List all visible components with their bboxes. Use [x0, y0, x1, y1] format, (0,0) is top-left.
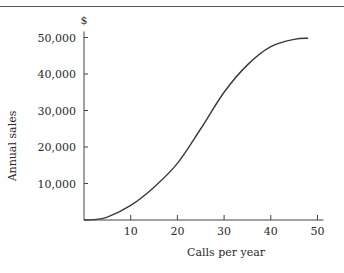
- y-tick-label: 30,000: [38, 105, 77, 118]
- x-tick-label: 10: [124, 225, 138, 238]
- y-tick-label: 20,000: [38, 141, 77, 154]
- x-tick-label: 20: [170, 225, 184, 238]
- y-tick-label: 10,000: [38, 178, 77, 191]
- axes: 10,00020,00030,00040,00050,0001020304050: [38, 32, 325, 239]
- y-tick-label: 50,000: [38, 32, 77, 45]
- y-axis-title: Annual sales: [6, 110, 19, 182]
- y-unit-label: $: [81, 14, 88, 27]
- sales-curve-path: [84, 38, 308, 220]
- x-tick-label: 40: [264, 225, 278, 238]
- x-tick-label: 30: [217, 225, 231, 238]
- chart: 10,00020,00030,00040,00050,0001020304050…: [0, 0, 344, 273]
- sales-curve: [84, 38, 308, 220]
- x-tick-label: 50: [311, 225, 325, 238]
- y-tick-label: 40,000: [38, 68, 77, 81]
- x-axis-title: Calls per year: [187, 246, 266, 259]
